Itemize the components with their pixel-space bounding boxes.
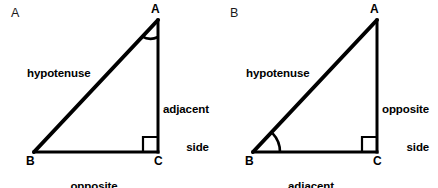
right-angle-marker-b <box>362 137 377 152</box>
vertex-label-a-apex: A <box>151 2 160 16</box>
hypotenuse-line-b <box>253 20 377 152</box>
angle-arc-b <box>273 133 280 152</box>
base-side-label-a-line1: opposite <box>56 180 132 188</box>
vertex-label-a-right: C <box>154 154 163 168</box>
vertical-side-label-b: opposite side <box>382 78 429 178</box>
base-side-label-b: adjacent side <box>269 155 353 188</box>
panel-b: B A B C hypotenuse opposite side adjacen… <box>219 0 438 188</box>
base-side-label-a: opposite side <box>56 155 132 188</box>
figure-root: A A B C hypotenuse adjacent side opposit… <box>0 0 438 188</box>
hypotenuse-label-b: hypotenuse <box>246 67 310 80</box>
vertical-side-label-b-line2: side <box>382 141 429 154</box>
vertex-label-b-left: B <box>245 154 254 168</box>
panel-label-b: B <box>230 6 238 20</box>
panel-label-a: A <box>11 6 19 20</box>
angle-arc-a <box>142 36 158 38</box>
hypotenuse-line-a <box>34 20 158 152</box>
vertical-side-label-a: adjacent side <box>163 78 209 178</box>
panel-a: A A B C hypotenuse adjacent side opposit… <box>0 0 219 188</box>
vertex-label-b-right: C <box>373 154 382 168</box>
right-angle-marker-a <box>143 137 158 152</box>
vertical-side-label-a-line1: adjacent <box>163 103 209 116</box>
vertical-side-label-a-line2: side <box>163 141 209 154</box>
hypotenuse-label-a: hypotenuse <box>27 67 91 80</box>
base-side-label-b-line1: adjacent <box>269 180 353 188</box>
vertex-label-b-apex: A <box>370 2 379 16</box>
vertex-label-a-left: B <box>26 154 35 168</box>
vertical-side-label-b-line1: opposite <box>382 103 429 116</box>
